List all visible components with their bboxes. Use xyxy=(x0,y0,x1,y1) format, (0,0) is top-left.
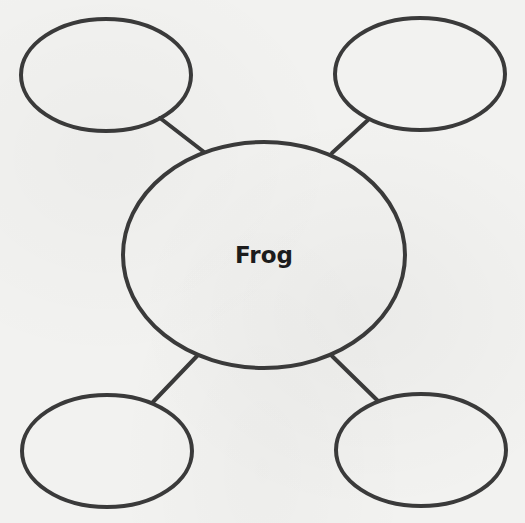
connector-bottom-right xyxy=(332,356,378,401)
center-node-label: Frog xyxy=(164,240,364,270)
connector-top-left xyxy=(160,118,204,152)
node-top-left[interactable] xyxy=(21,19,191,131)
connector-bottom-left xyxy=(153,356,197,402)
node-bottom-right[interactable] xyxy=(336,394,506,506)
node-bottom-left[interactable] xyxy=(22,395,192,507)
node-top-right[interactable] xyxy=(335,18,505,130)
connector-top-right xyxy=(332,120,368,153)
